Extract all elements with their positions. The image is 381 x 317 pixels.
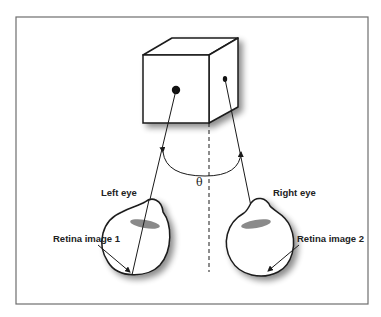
binocular-vision-diagram: θ Left eye Retina image 1 Right eye Reti… xyxy=(0,0,381,317)
retina-image-1-label: Retina image 1 xyxy=(53,233,121,244)
right-eye-label: Right eye xyxy=(273,187,316,198)
theta-label: θ xyxy=(196,176,203,189)
retina-image-2-label: Retina image 2 xyxy=(297,233,364,244)
left-eye-label: Left eye xyxy=(101,187,137,198)
